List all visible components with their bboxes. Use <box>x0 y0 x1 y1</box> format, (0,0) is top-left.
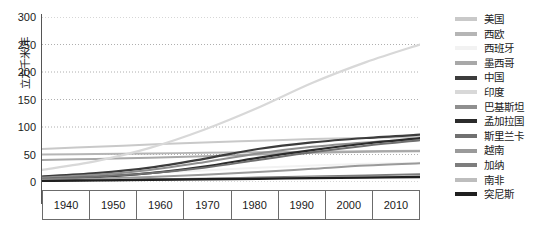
y-tick-label: 150 <box>18 94 36 106</box>
x-tick-label: 1980 <box>231 191 278 219</box>
x-tick-label: 1960 <box>136 191 183 219</box>
y-axis-tick-labels: 050100150200250300 <box>0 0 40 190</box>
legend-swatch <box>455 17 477 21</box>
legend-item[interactable]: 美国 <box>455 12 538 27</box>
legend-label: 墨西哥 <box>484 58 514 69</box>
x-tick-label: 1970 <box>183 191 230 219</box>
y-tick-label: 300 <box>18 11 36 23</box>
legend-label: 越南 <box>484 145 504 156</box>
y-tick-label: 250 <box>18 39 36 51</box>
legend-swatch <box>455 119 477 123</box>
legend-swatch <box>455 61 477 65</box>
legend-label: 中国 <box>484 72 504 83</box>
x-tick-label: 2000 <box>325 191 372 219</box>
legend-item[interactable]: 斯里兰卡 <box>455 129 538 144</box>
legend-label: 斯里兰卡 <box>484 131 524 142</box>
y-tick-label: 200 <box>18 66 36 78</box>
plot-area <box>42 17 420 182</box>
y-tick-label: 100 <box>18 121 36 133</box>
x-tick-label: 1950 <box>89 191 136 219</box>
y-tick-label: 50 <box>24 149 36 161</box>
line-chart-svg <box>42 17 420 182</box>
legend-label: 印度 <box>484 87 504 98</box>
legend-item[interactable]: 突尼斯 <box>455 187 538 202</box>
legend-item[interactable]: 越南 <box>455 143 538 158</box>
legend-item[interactable]: 南非 <box>455 173 538 188</box>
legend-item[interactable]: 孟加拉国 <box>455 114 538 129</box>
legend-label: 西班牙 <box>484 43 514 54</box>
legend-label: 美国 <box>484 14 504 25</box>
legend-label: 突尼斯 <box>484 189 514 200</box>
x-tick-label: 1990 <box>278 191 325 219</box>
legend-label: 加纳 <box>484 160 504 171</box>
legend-label: 巴基斯坦 <box>484 102 524 113</box>
legend-item[interactable]: 加纳 <box>455 158 538 173</box>
legend-item[interactable]: 中国 <box>455 70 538 85</box>
x-tick-label: 1940 <box>42 191 89 219</box>
legend: 美国西欧西班牙墨西哥中国印度巴基斯坦孟加拉国斯里兰卡越南加纳南非突尼斯 <box>455 12 538 217</box>
legend-label: 西欧 <box>484 29 504 40</box>
legend-label: 孟加拉国 <box>484 116 524 127</box>
legend-label: 南非 <box>484 175 504 186</box>
legend-swatch <box>455 76 477 80</box>
x-axis-tick-labels: 19401950196019701980199020002010 <box>42 190 420 220</box>
y-tick-label: 0 <box>30 176 36 188</box>
legend-item[interactable]: 西班牙 <box>455 41 538 56</box>
legend-swatch <box>455 32 477 36</box>
x-tick-label: 2010 <box>372 191 419 219</box>
legend-item[interactable]: 巴基斯坦 <box>455 100 538 115</box>
legend-swatch <box>455 46 477 50</box>
legend-swatch <box>455 192 477 196</box>
chart-root: 立方千米/年 050100150200250300 19401950196019… <box>0 0 538 227</box>
legend-swatch <box>455 105 477 109</box>
legend-item[interactable]: 印度 <box>455 85 538 100</box>
legend-swatch <box>455 178 477 182</box>
legend-swatch <box>455 90 477 94</box>
legend-item[interactable]: 西欧 <box>455 27 538 42</box>
legend-item[interactable]: 墨西哥 <box>455 56 538 71</box>
legend-swatch <box>455 163 477 167</box>
legend-swatch <box>455 149 477 153</box>
legend-swatch <box>455 134 477 138</box>
